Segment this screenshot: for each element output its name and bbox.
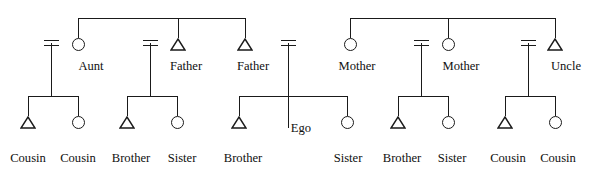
top-sibling-bar-right bbox=[350, 18, 555, 19]
descent-line-uncle bbox=[528, 43, 529, 96]
child-symbol-cousin1 bbox=[20, 116, 36, 129]
child-drop-sister3 bbox=[448, 96, 449, 116]
top-drop-mother1 bbox=[350, 18, 351, 38]
parent-symbol-mother1 bbox=[344, 38, 357, 51]
child-drop-cousin1 bbox=[28, 96, 29, 116]
sibling-bar-ego bbox=[239, 96, 347, 97]
child-label-ego: Ego bbox=[291, 122, 311, 135]
sibling-bar-cousins-left bbox=[28, 96, 78, 97]
child-drop-brother3 bbox=[398, 96, 399, 116]
top-drop-father2 bbox=[245, 18, 246, 38]
sibling-bar-siblings-right bbox=[398, 96, 448, 97]
child-symbol-sister2 bbox=[341, 116, 354, 129]
parent-label-uncle: Uncle bbox=[551, 60, 581, 73]
parent-symbol-mother2 bbox=[442, 38, 455, 51]
child-label-cousin3: Cousin bbox=[490, 152, 526, 165]
top-drop-father1 bbox=[178, 18, 179, 38]
top-sibling-bar-left bbox=[78, 18, 245, 19]
kinship-diagram: Aunt Father Father Mother Mother Uncle bbox=[0, 0, 598, 172]
child-drop-cousin2 bbox=[78, 96, 79, 116]
child-symbol-brother1 bbox=[119, 116, 135, 129]
child-symbol-cousin4 bbox=[549, 116, 562, 129]
parent-label-father1: Father bbox=[170, 60, 202, 73]
child-symbol-cousin2 bbox=[72, 116, 85, 129]
descent-line-aunt bbox=[51, 43, 52, 96]
sibling-bar-siblings-left bbox=[127, 96, 177, 97]
parent-symbol-uncle bbox=[547, 38, 563, 51]
child-drop-sister2 bbox=[347, 96, 348, 116]
child-label-sister2: Sister bbox=[334, 152, 363, 165]
parent-symbol-father1 bbox=[170, 38, 186, 51]
parent-label-mother1: Mother bbox=[338, 60, 375, 73]
child-symbol-brother3 bbox=[390, 116, 406, 129]
child-label-brother2: Brother bbox=[224, 152, 262, 165]
top-drop-aunt bbox=[78, 18, 79, 38]
child-label-cousin1: Cousin bbox=[10, 152, 46, 165]
parent-label-father2: Father bbox=[237, 60, 269, 73]
parent-symbol-aunt bbox=[72, 38, 85, 51]
sibling-bar-cousins-right bbox=[505, 96, 555, 97]
child-label-brother3: Brother bbox=[383, 152, 421, 165]
child-label-brother1: Brother bbox=[112, 152, 150, 165]
descent-line-mother2 bbox=[421, 43, 422, 96]
parent-label-mother2: Mother bbox=[442, 60, 479, 73]
descent-line-ego bbox=[288, 43, 289, 128]
top-drop-mother2 bbox=[448, 18, 449, 38]
child-drop-cousin4 bbox=[555, 96, 556, 116]
child-drop-cousin3 bbox=[505, 96, 506, 116]
child-label-sister3: Sister bbox=[438, 152, 467, 165]
parent-symbol-father2 bbox=[237, 38, 253, 51]
child-drop-brother1 bbox=[127, 96, 128, 116]
child-label-sister1: Sister bbox=[168, 152, 197, 165]
parent-label-aunt: Aunt bbox=[78, 60, 103, 73]
top-drop-uncle bbox=[555, 18, 556, 38]
descent-line-father1 bbox=[150, 43, 151, 96]
child-label-cousin4: Cousin bbox=[540, 152, 576, 165]
child-label-cousin2: Cousin bbox=[60, 152, 96, 165]
child-symbol-cousin3 bbox=[497, 116, 513, 129]
child-symbol-brother2 bbox=[231, 116, 247, 129]
child-drop-sister1 bbox=[177, 96, 178, 116]
child-drop-brother2 bbox=[239, 96, 240, 116]
child-symbol-sister1 bbox=[171, 116, 184, 129]
child-symbol-sister3 bbox=[442, 116, 455, 129]
